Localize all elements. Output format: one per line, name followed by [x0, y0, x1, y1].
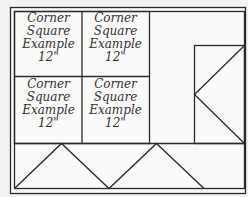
- corner-square-bottom-right: Corner Square Example 12": [82, 78, 149, 130]
- corner-square-top-right: Corner Square Example 12": [82, 12, 149, 64]
- label-line: 12": [82, 117, 149, 130]
- corner-square-bottom-left: Corner Square Example 12": [15, 78, 82, 130]
- corner-square-top-left: Corner Square Example 12": [15, 12, 82, 64]
- label-line: 12": [15, 51, 82, 64]
- quilt-layout-diagram: Corner Square Example 12" Corner Square …: [0, 0, 248, 197]
- label-line: 12": [15, 117, 82, 130]
- label-line: 12": [82, 51, 149, 64]
